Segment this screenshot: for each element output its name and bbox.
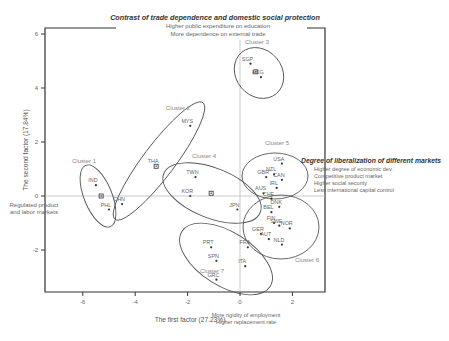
- data-point: [215, 279, 217, 281]
- bottom-annotation-line-1: More rigidity of employment: [212, 312, 281, 318]
- point-label: CAN: [273, 172, 284, 178]
- cluster-2-label: Cluster 2: [166, 105, 191, 111]
- data-point: [281, 179, 283, 181]
- y-axis-label: The second factor (17.84%): [22, 109, 30, 190]
- point-label: IRL: [269, 180, 277, 186]
- centroid-dot: [155, 166, 157, 168]
- point-label: BEL: [263, 204, 273, 210]
- data-point: [260, 76, 262, 78]
- y-tick-label: 0: [35, 193, 39, 199]
- point-label: SGP: [242, 56, 254, 62]
- point-label: ITA: [238, 258, 246, 264]
- point-label: DNK: [271, 199, 283, 205]
- point-label: KOR: [181, 188, 193, 194]
- bottom-annotation-line-2: Higher replacement rate: [216, 319, 276, 325]
- right-annotation-line-4: Less international capital control: [314, 187, 394, 193]
- point-label: USA: [273, 156, 284, 162]
- cluster-6-label: Cluster 6: [295, 257, 320, 263]
- data-point: [121, 203, 123, 205]
- data-point: [189, 125, 191, 127]
- x-tick-label: -2: [185, 299, 191, 305]
- point-label: PHL: [101, 202, 112, 208]
- data-point: [265, 176, 267, 178]
- data-point: [244, 265, 246, 267]
- data-point: [210, 246, 212, 248]
- y-tick-label: 2: [35, 139, 39, 145]
- point-label: AUT: [260, 231, 271, 237]
- x-axis-ticks: -6-4-202: [80, 292, 295, 305]
- cluster-4-label: Cluster 4: [192, 153, 217, 159]
- left-annotation-line-2: and labor markets: [10, 209, 58, 215]
- y-tick-label: 4: [35, 85, 39, 91]
- cluster-1-label: Cluster 1: [72, 158, 97, 164]
- data-point: [289, 227, 291, 229]
- scatter-chart: -6-4-202 -20246 Cluster 1 Cluster 2 Clus…: [0, 0, 449, 341]
- point-label: NLD: [274, 237, 285, 243]
- data-point: [281, 244, 283, 246]
- point-label: FRA: [239, 239, 250, 245]
- data-point: [95, 184, 97, 186]
- data-point: [278, 206, 280, 208]
- y-tick-label: 6: [35, 31, 39, 37]
- data-point: [189, 195, 191, 197]
- data-point: [281, 163, 283, 165]
- x-tick-label: -6: [80, 299, 86, 305]
- data-point: [249, 63, 251, 65]
- point-label: THA: [148, 158, 159, 164]
- data-point: [268, 238, 270, 240]
- top-annotation-line-2: More dependence on external trade: [170, 31, 266, 37]
- point-label: NOR: [281, 220, 293, 226]
- x-tick-label: -4: [133, 299, 139, 305]
- data-point: [247, 246, 249, 248]
- point-label: CHN: [113, 196, 125, 202]
- centroid-dot: [100, 195, 102, 197]
- cluster-2-ellipse: [102, 93, 215, 229]
- cluster-3-label: Cluster 3: [245, 39, 270, 45]
- x-tick-label: 2: [291, 299, 295, 305]
- point-label: TWN: [186, 169, 198, 175]
- point-label: IND: [88, 177, 97, 183]
- data-point: [236, 208, 238, 210]
- point-label: MYS: [181, 118, 193, 124]
- data-point: [194, 176, 196, 178]
- y-axis-ticks: -20246: [33, 31, 45, 253]
- right-annotation-line-3: Higher social security: [314, 180, 367, 186]
- data-point: [276, 187, 278, 189]
- left-annotation-line-1: Regulated product: [9, 202, 58, 208]
- right-annotation-line-1: Higher degree of economic dev.: [314, 166, 393, 172]
- data-point: [215, 260, 217, 262]
- point-label: CHE: [263, 191, 275, 197]
- point-label: PRT: [203, 239, 214, 245]
- point-label: SPN: [208, 253, 219, 259]
- cluster-7-ellipse: [168, 209, 285, 310]
- cluster-5-label: Cluster 5: [265, 140, 290, 146]
- data-point: [108, 208, 110, 210]
- right-annotation-line-2: Competitive product market: [314, 173, 383, 179]
- x-tick-label: 0: [238, 299, 242, 305]
- point-label: HKG: [252, 69, 264, 75]
- y-tick-label: -2: [33, 247, 39, 253]
- centroid-dot: [210, 193, 212, 195]
- point-label: GRC: [207, 272, 219, 278]
- data-point: [270, 211, 272, 213]
- top-annotation-line-1: Higher public expenditure on education: [166, 23, 270, 29]
- point-label: JPN: [229, 202, 239, 208]
- data-points: INDPHLCHNTHAMYSSGPHKGTWNKORJPNUSAGBRNZLC…: [88, 56, 293, 281]
- right-annotation-title: Degree of liberalization of different ma…: [301, 157, 441, 165]
- chart-title: Contrast of trade dependence and domesti…: [110, 13, 320, 22]
